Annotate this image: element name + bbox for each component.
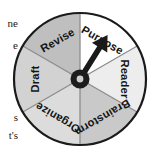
- figure-canvas: ne e s t's PurposeReaderBrainstormOrgani…: [0, 0, 151, 157]
- writing-process-wheel: PurposeReaderBrainstormOrganizeDraftRevi…: [0, 0, 151, 157]
- segment-label-draft: Draft: [29, 65, 41, 92]
- segment-label-reader: Reader: [119, 59, 131, 99]
- hub-center-pin: [77, 76, 84, 83]
- wheel-hub: [71, 70, 90, 89]
